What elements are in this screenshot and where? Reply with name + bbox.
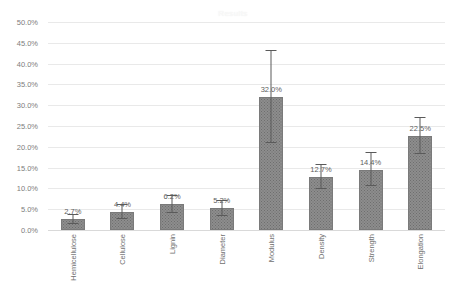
bar-value-label: 5.2% — [213, 196, 230, 205]
y-axis-tick-label: 50.0% — [17, 18, 38, 27]
y-axis-tick-label: 35.0% — [17, 80, 38, 89]
bar-group[interactable]: 5.2% — [197, 22, 247, 230]
bar-value-label: 12.7% — [310, 165, 331, 174]
bar-value-label: 4.4% — [114, 200, 131, 209]
error-bar-cap — [117, 218, 128, 219]
bar-group[interactable]: 4.4% — [98, 22, 148, 230]
bar-group[interactable]: 14.4% — [346, 22, 396, 230]
error-bar-cap — [167, 212, 178, 213]
error-bar-cap — [315, 188, 326, 189]
x-axis-label-slot: Modulus — [247, 232, 297, 292]
y-axis-tick-label: 25.0% — [17, 122, 38, 131]
error-bar — [420, 118, 421, 155]
error-bar-cap — [67, 223, 78, 224]
x-axis-category-labels: HemicelluloseCelluloseLigninDiameterModu… — [48, 232, 445, 292]
error-bar-cap — [216, 215, 227, 216]
error-bar-cap — [266, 142, 277, 143]
bar-value-label: 32.0% — [261, 85, 282, 94]
y-axis-tick-label: 5.0% — [21, 205, 38, 214]
y-axis-tick-label: 10.0% — [17, 184, 38, 193]
plot-area: 2.7%4.4%6.2%5.2%32.0%12.7%14.4%22.5% — [48, 22, 445, 230]
x-axis-tick-label: Cellulose — [118, 234, 127, 265]
bar-group[interactable]: 22.5% — [395, 22, 445, 230]
x-axis-label-slot: Density — [296, 232, 346, 292]
x-axis-tick-label: Elongation — [416, 234, 425, 269]
error-bar — [271, 51, 272, 143]
bar-group[interactable]: 2.7% — [48, 22, 98, 230]
x-axis-label-slot: Elongation — [395, 232, 445, 292]
x-axis-tick-label: Density — [316, 234, 325, 259]
y-axis-tick-label: 45.0% — [17, 38, 38, 47]
x-axis-label-slot: Hemicellulose — [48, 232, 98, 292]
x-axis-tick-label: Modulus — [267, 234, 276, 262]
bar-value-label: 2.7% — [64, 207, 81, 216]
error-bar-cap — [266, 50, 277, 51]
x-axis-tick-label: Hemicellulose — [68, 234, 77, 281]
x-axis-label-slot: Strength — [346, 232, 396, 292]
y-axis-tick-label: 40.0% — [17, 59, 38, 68]
y-axis-tick-labels: 0.0%5.0%10.0%15.0%20.0%25.0%30.0%35.0%40… — [0, 22, 44, 230]
chart-title: Results — [0, 9, 466, 18]
y-axis-tick-label: 30.0% — [17, 101, 38, 110]
bar-group[interactable]: 12.7% — [296, 22, 346, 230]
error-bar-cap — [415, 117, 426, 118]
error-bar-cap — [415, 153, 426, 154]
y-axis-tick-label: 15.0% — [17, 163, 38, 172]
bar-group[interactable]: 32.0% — [247, 22, 297, 230]
y-axis-tick-label: 20.0% — [17, 142, 38, 151]
chart-container: Results 0.0%5.0%10.0%15.0%20.0%25.0%30.0… — [0, 0, 466, 295]
gridline — [48, 230, 445, 231]
y-axis-tick-label: 0.0% — [21, 226, 38, 235]
bar-value-label: 14.4% — [360, 158, 381, 167]
bar-group[interactable]: 6.2% — [147, 22, 197, 230]
x-axis-label-slot: Cellulose — [98, 232, 148, 292]
x-axis-tick-label: Strength — [366, 234, 375, 262]
x-axis-label-slot: Diameter — [197, 232, 247, 292]
bar-series: 2.7%4.4%6.2%5.2%32.0%12.7%14.4%22.5% — [48, 22, 445, 230]
error-bar-cap — [365, 185, 376, 186]
bar-value-label: 6.2% — [164, 192, 181, 201]
x-axis-tick-label: Lignin — [168, 234, 177, 254]
x-axis-label-slot: Lignin — [147, 232, 197, 292]
x-axis-tick-label: Diameter — [217, 234, 226, 264]
bar-value-label: 22.5% — [410, 124, 431, 133]
error-bar-cap — [365, 152, 376, 153]
